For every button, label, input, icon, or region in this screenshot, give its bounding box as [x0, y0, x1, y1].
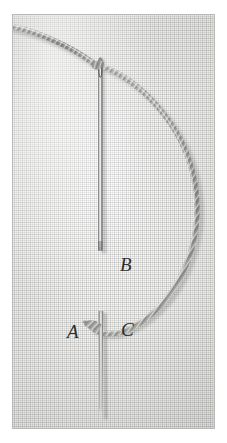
figure-root: B A C	[0, 0, 227, 443]
needle-upper-shaft	[98, 57, 103, 251]
fabric-hole-a	[83, 320, 87, 323]
needle-thread-scene	[13, 15, 214, 428]
point-label-b: B	[120, 255, 132, 274]
point-label-a: A	[67, 322, 79, 341]
point-label-c: C	[121, 320, 134, 339]
photo-plate: B A C	[12, 14, 215, 429]
thread-loop-segment	[92, 62, 197, 334]
